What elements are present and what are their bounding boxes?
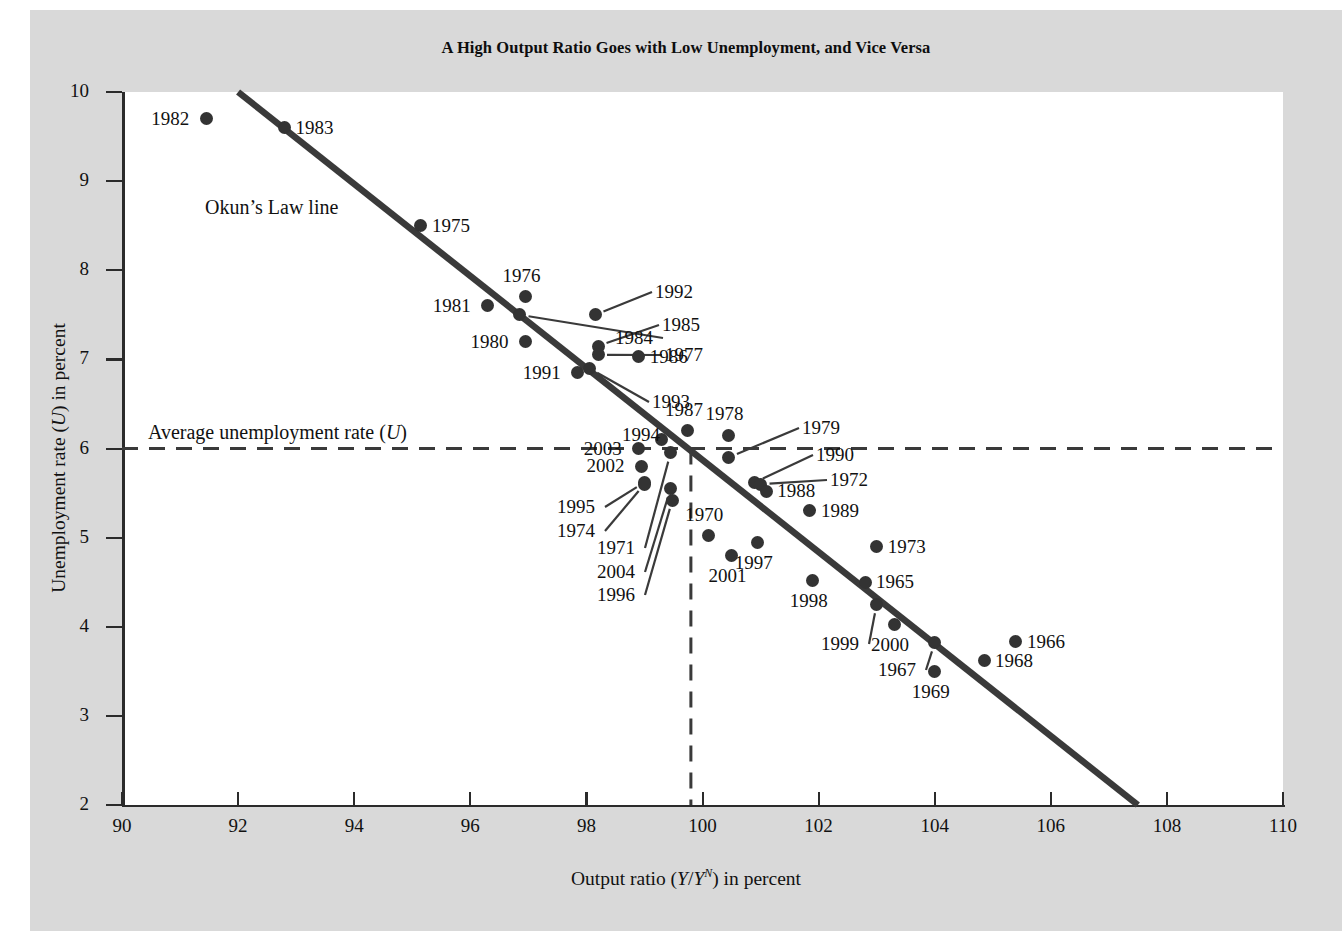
data-label-1999: 1999 (821, 634, 859, 653)
data-label-1995: 1995 (557, 497, 595, 516)
data-label-1970: 1970 (685, 505, 723, 524)
data-label-2000: 2000 (871, 635, 909, 654)
data-label-1973: 1973 (888, 537, 926, 556)
data-label-1986: 1986 (650, 347, 688, 366)
average-label-variable: U (386, 421, 400, 443)
data-point-2000 (888, 618, 901, 631)
data-label-1987: 1987 (665, 400, 703, 419)
leader-line-1990 (763, 455, 813, 479)
data-label-1984: 1984 (615, 328, 653, 347)
data-point-1993 (583, 362, 596, 375)
figure-panel: A High Output Ratio Goes with Low Unempl… (30, 10, 1342, 931)
data-point-1982 (200, 112, 213, 125)
data-point-1965 (859, 576, 872, 589)
data-label-1972: 1972 (830, 470, 868, 489)
data-label-1985: 1985 (662, 315, 700, 334)
data-label-1994: 1994 (622, 425, 660, 444)
data-label-1965: 1965 (876, 572, 914, 591)
data-point-1997 (751, 536, 764, 549)
data-label-1967: 1967 (878, 660, 916, 679)
data-point-1977 (592, 348, 605, 361)
data-point-1978 (722, 429, 735, 442)
data-label-1998: 1998 (790, 591, 828, 610)
average-label-pre: Average unemployment rate ( (148, 421, 386, 443)
data-label-2001: 2001 (709, 566, 747, 585)
data-point-2002 (635, 460, 648, 473)
average-unemployment-label: Average unemployment rate (U) (148, 421, 407, 444)
data-point-1988 (760, 485, 773, 498)
data-point-1992 (589, 308, 602, 321)
data-point-1974 (638, 478, 651, 491)
data-label-1982: 1982 (151, 109, 189, 128)
data-label-1989: 1989 (821, 501, 859, 520)
data-label-1968: 1968 (995, 651, 1033, 670)
data-label-1979: 1979 (802, 418, 840, 437)
leader-line-1992 (603, 292, 652, 311)
data-label-1992: 1992 (655, 282, 693, 301)
data-label-1975: 1975 (432, 216, 470, 235)
data-point-1980 (519, 335, 532, 348)
data-label-1991: 1991 (523, 363, 561, 382)
data-label-1996: 1996 (597, 585, 635, 604)
data-label-1974: 1974 (557, 521, 595, 540)
okun-law-line-label: Okun’s Law line (205, 196, 338, 219)
data-label-2004: 2004 (597, 562, 635, 581)
data-label-2002: 2002 (587, 456, 625, 475)
data-point-1969 (928, 665, 941, 678)
data-label-1969: 1969 (912, 682, 950, 701)
data-label-1971: 1971 (597, 538, 635, 557)
data-label-1980: 1980 (470, 332, 508, 351)
data-point-1979 (722, 451, 735, 464)
data-label-1990: 1990 (816, 445, 854, 464)
data-label-1978: 1978 (706, 404, 744, 423)
leader-line-1995 (605, 487, 637, 507)
data-label-1988: 1988 (777, 481, 815, 500)
data-point-1968 (978, 654, 991, 667)
plot-overlay (30, 10, 1342, 931)
data-label-1966: 1966 (1027, 632, 1065, 651)
data-label-1976: 1976 (502, 266, 540, 285)
leader-line-1996 (645, 509, 670, 595)
average-label-post: ) (400, 421, 407, 443)
data-point-1996 (666, 494, 679, 507)
data-label-1983: 1983 (296, 118, 334, 137)
leader-line-1979 (737, 428, 799, 454)
data-label-1981: 1981 (433, 296, 471, 315)
